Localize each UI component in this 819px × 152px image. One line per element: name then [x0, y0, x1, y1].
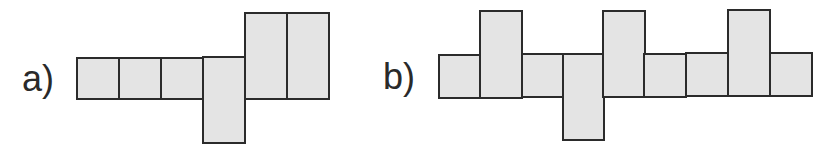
net-b-cell-1 — [479, 10, 523, 99]
net-b-cell-8 — [769, 52, 813, 97]
net-b-cell-3 — [562, 53, 605, 141]
net-b-cell-5 — [643, 53, 687, 98]
net-b-cell-2 — [521, 53, 565, 98]
net-b-cell-0 — [438, 54, 482, 99]
net-figure-b — [0, 0, 819, 152]
net-b-cell-7 — [727, 9, 771, 97]
net-b-cell-4 — [602, 10, 646, 98]
net-b-cell-6 — [685, 52, 729, 97]
